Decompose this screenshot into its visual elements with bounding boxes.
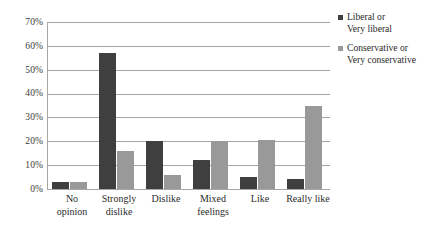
x-axis-line [47, 189, 330, 190]
y-axis-tick-label: 70% [3, 17, 43, 27]
y-axis-tick-label: 60% [3, 41, 43, 51]
bar-conservative[interactable] [305, 106, 322, 190]
bar-group-really-like [284, 22, 328, 189]
legend-label-line: Very liberal [347, 23, 443, 35]
legend-entry-liberal[interactable]: Liberal or Very liberal [338, 11, 443, 35]
legend-swatch-icon [338, 46, 343, 51]
bar-group-no-opinion [49, 22, 93, 189]
bar-liberal[interactable] [287, 179, 304, 189]
bar-liberal[interactable] [146, 141, 163, 189]
y-axis-tick-label: 10% [3, 160, 43, 170]
bar-conservative[interactable] [70, 182, 87, 189]
bars-layer [47, 22, 330, 189]
x-axis-label-line: dislike [89, 206, 149, 219]
bar-group-strongly-dislike [96, 22, 140, 189]
legend-swatch-icon [338, 15, 343, 20]
x-axis-label-line: Really like [275, 193, 341, 206]
legend-label-line: Very conservative [347, 54, 443, 66]
bar-chart: 70% 60% 50% 40% 30% 20% 10% 0% [0, 0, 447, 235]
y-axis-tick-label: 30% [3, 112, 43, 122]
legend-entry-conservative[interactable]: Conservative or Very conservative [338, 42, 443, 66]
bar-liberal[interactable] [240, 177, 257, 189]
bar-group-dislike [143, 22, 187, 189]
bar-conservative[interactable] [211, 141, 228, 189]
bar-liberal[interactable] [99, 53, 116, 189]
bar-conservative[interactable] [258, 140, 275, 189]
bar-group-like [237, 22, 281, 189]
legend-label-line: Liberal or [347, 11, 443, 23]
y-axis-tick-label: 50% [3, 65, 43, 75]
y-axis-tick-label: 20% [3, 136, 43, 146]
y-axis-tick-label: 0% [3, 184, 43, 194]
bar-group-mixed-feelings [190, 22, 234, 189]
bar-conservative[interactable] [164, 175, 181, 189]
x-axis-label-really-like: Really like [275, 193, 341, 206]
x-axis-label-line: feelings [183, 206, 243, 219]
legend-label-line: Conservative or [347, 42, 443, 54]
bar-liberal[interactable] [52, 182, 69, 189]
y-axis-tick-label: 40% [3, 88, 43, 98]
bar-conservative[interactable] [117, 151, 134, 189]
bar-liberal[interactable] [193, 160, 210, 189]
legend: Liberal or Very liberal Conservative or … [338, 11, 443, 73]
